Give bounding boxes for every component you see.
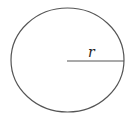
radius-label: r — [88, 44, 96, 60]
circle-diagram: r — [0, 0, 132, 117]
circle-outline — [11, 8, 124, 112]
